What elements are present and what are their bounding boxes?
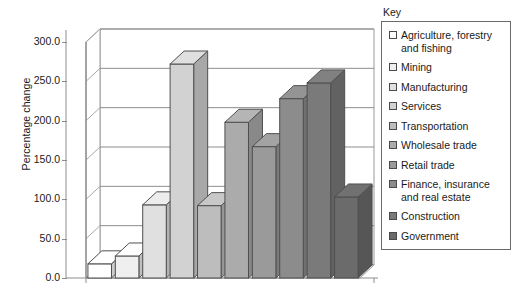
y-axis-tick-label: 250.0 <box>14 74 60 86</box>
legend-item-label: Transportation <box>401 120 468 133</box>
legend-swatch-icon <box>389 232 397 240</box>
legend-item[interactable]: Services <box>389 100 504 113</box>
y-axis-tick-mark <box>62 278 67 279</box>
y-axis-tick-label: 200.0 <box>14 114 60 126</box>
chart-screenshot: Percentage change 300.0250.0200.0150.010… <box>0 0 516 292</box>
legend-swatch-icon <box>389 141 397 149</box>
y-axis-tick-label: 100.0 <box>14 192 60 204</box>
legend-swatch-icon <box>389 83 397 91</box>
legend-item-label: Services <box>401 100 441 113</box>
legend-item-label: Finance, insurance and real estate <box>401 178 504 203</box>
bar-front-face <box>280 99 304 278</box>
legend-item[interactable]: Agriculture, forestry and fishing <box>389 29 504 54</box>
y-axis-tick-label: 0.0 <box>14 271 60 283</box>
legend-item-label: Retail trade <box>401 159 455 172</box>
legend-item[interactable]: Transportation <box>389 120 504 133</box>
legend-swatch-icon <box>389 161 397 169</box>
legend-swatch-icon <box>389 180 397 188</box>
bar-front-face <box>170 64 194 278</box>
legend-item[interactable]: Wholesale trade <box>389 139 504 152</box>
bar-front-face <box>198 206 222 278</box>
legend-swatch-icon <box>389 212 397 220</box>
legend-item[interactable]: Government <box>389 230 504 243</box>
legend-swatch-icon <box>389 63 397 71</box>
legend-swatch-icon <box>389 102 397 110</box>
legend-item-label: Government <box>401 230 459 243</box>
y-axis-tick-label: 300.0 <box>14 35 60 47</box>
bar[interactable] <box>335 184 373 278</box>
legend-box: Agriculture, forestry and fishingMiningM… <box>381 21 511 250</box>
y-axis-tick-label: 150.0 <box>14 153 60 165</box>
bar-front-face <box>252 147 276 278</box>
bar-front-face <box>143 205 167 278</box>
legend-item[interactable]: Retail trade <box>389 159 504 172</box>
legend-item[interactable]: Manufacturing <box>389 81 504 94</box>
bar-front-face <box>225 122 249 278</box>
legend-title: Key <box>383 6 513 18</box>
bar-front-face <box>115 256 139 278</box>
bar-front-face <box>335 197 359 278</box>
y-axis-tick-mark <box>62 42 67 43</box>
bar-front-face <box>88 264 112 278</box>
legend-item[interactable]: Finance, insurance and real estate <box>389 178 504 203</box>
bar-chart: Percentage change 300.0250.0200.0150.010… <box>0 0 378 292</box>
y-axis-tick-mark <box>62 81 67 82</box>
y-axis-tick-mark <box>62 160 67 161</box>
y-axis-tick-label: 50.0 <box>14 232 60 244</box>
legend-swatch-icon <box>389 31 397 39</box>
legend-item[interactable]: Construction <box>389 210 504 223</box>
legend-item[interactable]: Mining <box>389 61 504 74</box>
legend-swatch-icon <box>389 122 397 130</box>
bar-side-face <box>358 184 372 278</box>
legend-item-label: Agriculture, forestry and fishing <box>401 29 504 54</box>
legend-item-label: Mining <box>401 61 432 74</box>
legend-item-label: Wholesale trade <box>401 139 477 152</box>
y-axis-tick-mark <box>62 239 67 240</box>
y-axis-tick-mark <box>62 121 67 122</box>
y-axis-tick-mark <box>62 199 67 200</box>
legend-item-label: Manufacturing <box>401 81 468 94</box>
legend: Key Agriculture, forestry and fishingMin… <box>381 6 513 250</box>
legend-item-label: Construction <box>401 210 460 223</box>
bar-front-face <box>307 83 331 278</box>
